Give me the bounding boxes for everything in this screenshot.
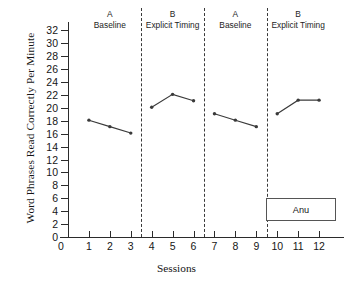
data-line-segment (214, 114, 256, 127)
phase-header: BExplicit Timing (253, 9, 343, 30)
y-axis-tick (61, 82, 68, 83)
phase-divider (204, 8, 205, 237)
y-axis-tick-label: 28 (18, 51, 58, 61)
y-axis-tick-label: 6 (18, 193, 58, 203)
x-axis-tick (214, 231, 215, 237)
chart-figure: Word Phrases Read Correctly Per Minute S… (0, 0, 353, 285)
y-axis-tick (61, 172, 68, 173)
x-axis-tick-label: 12 (307, 240, 331, 252)
y-axis-tick-label: 26 (18, 64, 58, 74)
y-axis-tick (61, 198, 68, 199)
y-axis-tick (61, 147, 68, 148)
y-axis-tick-label: 4 (18, 206, 58, 216)
x-axis-tick (173, 231, 174, 237)
y-axis-tick-label: 2 (18, 219, 58, 229)
y-axis-tick (61, 134, 68, 135)
y-axis-tick-label: 16 (18, 129, 58, 139)
y-axis-tick (61, 43, 68, 44)
data-line-segment (89, 120, 131, 133)
x-axis-tick (194, 231, 195, 237)
y-axis-line (68, 22, 69, 238)
data-point-marker (234, 118, 237, 121)
x-axis-tick (131, 231, 132, 237)
x-axis-tick (277, 231, 278, 237)
x-axis-tick (152, 231, 153, 237)
y-axis-tick-label: 18 (18, 116, 58, 126)
x-axis-tick (235, 231, 236, 237)
y-axis-tick-label: 12 (18, 155, 58, 165)
y-axis-tick-label: 10 (18, 167, 58, 177)
y-axis-tick-label: 30 (18, 38, 58, 48)
x-axis-tick (298, 231, 299, 237)
y-axis-tick (61, 121, 68, 122)
y-axis-tick-label: 32 (18, 25, 58, 35)
phase-divider (141, 8, 142, 237)
data-point-marker (192, 99, 195, 102)
data-line-segment (152, 94, 194, 107)
data-point-marker (317, 98, 320, 101)
data-point-marker (213, 112, 216, 115)
legend-box: Anu (266, 198, 336, 221)
data-point-marker (129, 131, 132, 134)
y-axis-tick-label: 14 (18, 142, 58, 152)
y-axis-tick (61, 56, 68, 57)
data-point-marker (296, 98, 299, 101)
y-axis-tick (61, 224, 68, 225)
y-axis-tick-label: 8 (18, 180, 58, 190)
data-point-marker (108, 125, 111, 128)
x-axis-line (60, 237, 344, 238)
x-axis-tick (89, 231, 90, 237)
data-line-segment (277, 100, 319, 114)
y-axis-tick (61, 95, 68, 96)
x-axis-tick (110, 231, 111, 237)
x-axis-tick-label: 0 (49, 240, 73, 252)
phase-name: Explicit Timing (253, 20, 343, 31)
x-axis-tick (256, 231, 257, 237)
data-point-marker (171, 93, 174, 96)
y-axis-tick-label: 24 (18, 77, 58, 87)
y-axis-tick (61, 160, 68, 161)
y-axis-tick (61, 30, 68, 31)
y-axis-tick (61, 211, 68, 212)
y-axis-tick-label: 20 (18, 103, 58, 113)
y-axis-tick (61, 69, 68, 70)
data-point-marker (276, 112, 279, 115)
data-point-marker (87, 118, 90, 121)
y-axis-tick (61, 108, 68, 109)
x-axis-tick (319, 231, 320, 237)
y-axis-tick-label: 22 (18, 90, 58, 100)
data-point-marker (150, 106, 153, 109)
y-axis-tick (61, 185, 68, 186)
x-axis-title: Sessions (0, 262, 353, 274)
legend-label: Anu (293, 205, 309, 215)
phase-letter: B (253, 9, 343, 20)
data-point-marker (255, 125, 258, 128)
